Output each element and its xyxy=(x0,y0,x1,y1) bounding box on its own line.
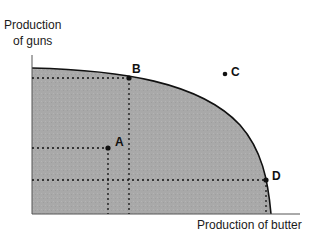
point-d-marker xyxy=(263,177,268,182)
y-axis-label-line1: Production xyxy=(4,18,61,32)
y-axis-label-line2: of guns xyxy=(13,34,52,48)
point-a-label: A xyxy=(115,135,124,149)
point-b-marker xyxy=(126,75,131,80)
point-d-label: D xyxy=(272,169,281,183)
feasible-region xyxy=(32,68,271,214)
x-axis-label: Production of butter xyxy=(197,218,302,232)
point-b-label: B xyxy=(132,62,141,76)
point-c-label: C xyxy=(231,65,240,79)
point-c-marker xyxy=(223,72,228,77)
point-a-marker xyxy=(105,145,110,150)
